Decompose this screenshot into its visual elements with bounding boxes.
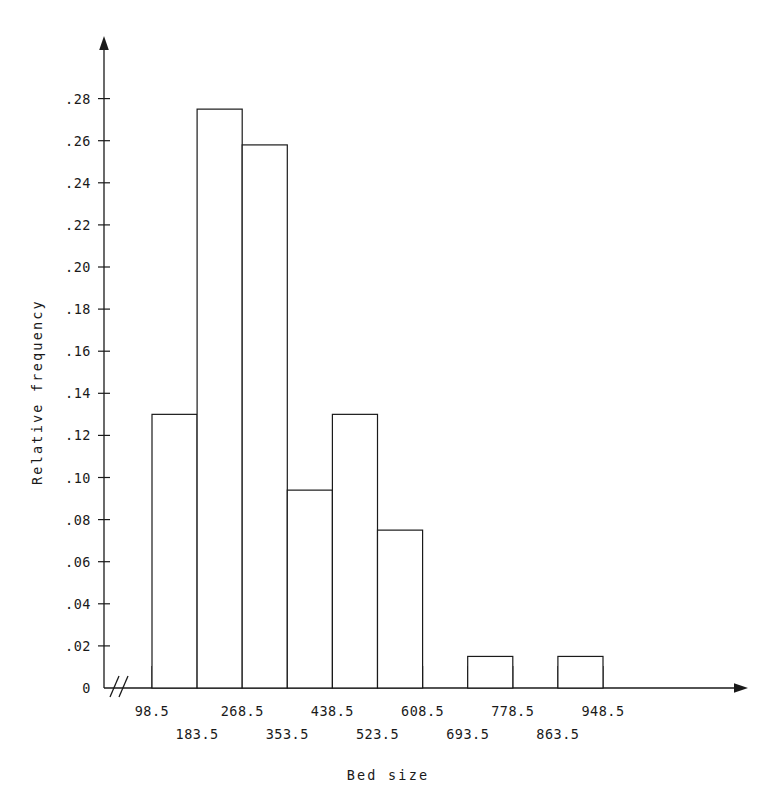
x-tick-label-upper: 438.5 bbox=[311, 703, 354, 719]
y-tick-label: .20 bbox=[65, 259, 91, 275]
x-tick-label-lower: 353.5 bbox=[266, 726, 309, 742]
y-tick-label: .28 bbox=[65, 91, 91, 107]
histogram-bar bbox=[287, 490, 332, 688]
y-tick-label: .22 bbox=[65, 217, 91, 233]
histogram-bar bbox=[468, 656, 513, 688]
x-tick-label-lower: 863.5 bbox=[536, 726, 579, 742]
histogram-figure: 0.02.04.06.08.10.12.14.16.18.20.22.24.26… bbox=[0, 0, 775, 812]
y-axis-title: Relative frequency bbox=[29, 299, 45, 485]
y-tick-label: .04 bbox=[65, 596, 91, 612]
histogram-bar bbox=[242, 145, 287, 688]
y-tick-label: .06 bbox=[65, 554, 91, 570]
y-tick-label: .18 bbox=[65, 301, 91, 317]
x-tick-label-upper: 98.5 bbox=[135, 703, 170, 719]
y-tick-label: .24 bbox=[65, 175, 91, 191]
y-tick-label: .26 bbox=[65, 133, 91, 149]
x-tick-label-upper: 778.5 bbox=[491, 703, 534, 719]
y-tick-label: .14 bbox=[65, 385, 91, 401]
y-tick-label: .12 bbox=[65, 427, 91, 443]
histogram-bar bbox=[197, 109, 242, 688]
histogram-svg: 0.02.04.06.08.10.12.14.16.18.20.22.24.26… bbox=[0, 0, 775, 812]
histogram-bar bbox=[152, 414, 197, 688]
x-tick-label-upper: 608.5 bbox=[401, 703, 444, 719]
x-tick-label-lower: 523.5 bbox=[356, 726, 399, 742]
histogram-bar bbox=[558, 656, 603, 688]
figure-background bbox=[0, 0, 775, 812]
x-tick-label-upper: 268.5 bbox=[221, 703, 264, 719]
x-tick-label-upper: 948.5 bbox=[581, 703, 624, 719]
y-tick-label: .02 bbox=[65, 638, 91, 654]
histogram-bar bbox=[378, 530, 423, 688]
x-axis-title: Bed size bbox=[347, 767, 430, 783]
y-tick-label: .16 bbox=[65, 343, 91, 359]
y-tick-label: 0 bbox=[82, 680, 91, 696]
x-tick-label-lower: 183.5 bbox=[176, 726, 219, 742]
y-tick-label: .10 bbox=[65, 470, 91, 486]
x-tick-label-lower: 693.5 bbox=[446, 726, 489, 742]
histogram-bar bbox=[332, 414, 377, 688]
y-tick-label: .08 bbox=[65, 512, 91, 528]
